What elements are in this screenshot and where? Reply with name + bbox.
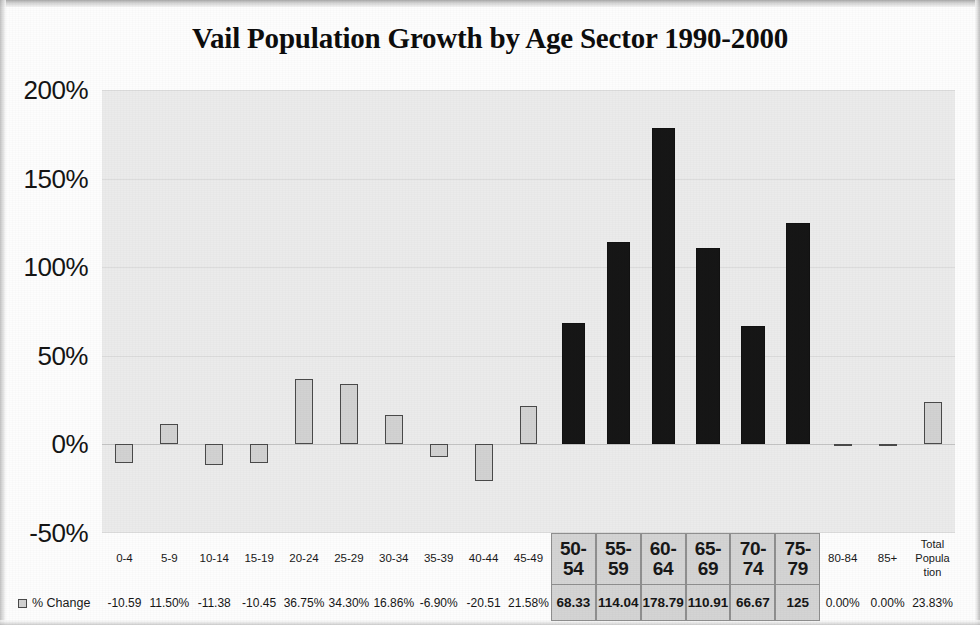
category-label: 5-9 <box>147 533 192 585</box>
category-label: 40-44 <box>461 533 506 585</box>
gridline <box>102 267 955 268</box>
value-cell: -10.59 <box>102 585 147 621</box>
bar-40-44 <box>475 444 493 480</box>
legend: % Change <box>18 596 90 610</box>
category-label: 20-24 <box>282 533 327 585</box>
table-column: 0-4-10.59 <box>102 533 147 621</box>
category-label: 10-14 <box>192 533 237 585</box>
category-label: 75-79 <box>775 533 820 585</box>
y-axis-tick-label: 150% <box>24 163 89 194</box>
bar-80-84 <box>834 444 852 446</box>
bar-60-64 <box>652 128 675 445</box>
bar-20-24 <box>295 379 313 444</box>
category-label: 45-49 <box>506 533 551 585</box>
bar-85- <box>879 444 897 446</box>
category-label: 80-84 <box>820 533 865 585</box>
value-cell: -6.90% <box>416 585 461 621</box>
table-column: 5-911.50% <box>147 533 192 621</box>
value-cell: 16.86% <box>371 585 416 621</box>
table-column: 50-5468.33 <box>551 533 596 621</box>
value-cell: 0.00% <box>865 585 910 621</box>
value-cell: 36.75% <box>282 585 327 621</box>
bar-55-59 <box>607 242 630 444</box>
gridline <box>102 90 955 91</box>
category-label: 35-39 <box>416 533 461 585</box>
value-cell: 110.91 <box>686 585 731 621</box>
category-label: 55-59 <box>596 533 641 585</box>
bar-75-79 <box>786 223 809 445</box>
value-cell: 34.30% <box>326 585 371 621</box>
y-axis-tick-label: 0% <box>51 429 88 460</box>
y-axis-tick-label: 50% <box>37 340 88 371</box>
y-axis-tick-label: 100% <box>24 252 89 283</box>
square-swatch-icon <box>18 599 27 608</box>
bar-5-9 <box>160 424 178 444</box>
plot-area <box>102 90 955 533</box>
legend-label: % Change <box>32 596 90 610</box>
page-edge-top <box>0 0 980 7</box>
bar-70-74 <box>741 326 764 444</box>
scanned-chart-page: Vail Population Growth by Age Sector 199… <box>0 0 980 625</box>
bar-10-14 <box>205 444 223 464</box>
y-axis-tick-label: 200% <box>24 75 89 106</box>
gridline <box>102 356 955 357</box>
bar-50-54 <box>562 323 585 444</box>
table-column: 30-3416.86% <box>371 533 416 621</box>
bar-total-population <box>924 402 942 444</box>
table-column: 20-2436.75% <box>282 533 327 621</box>
value-cell: 114.04 <box>596 585 641 621</box>
category-label: 0-4 <box>102 533 147 585</box>
table-column: 60-64178.79 <box>641 533 686 621</box>
y-axis-tick-label: -50% <box>29 518 88 549</box>
table-column: 35-39-6.90% <box>416 533 461 621</box>
table-column: 15-19-10.45 <box>237 533 282 621</box>
table-column: 10-14-11.38 <box>192 533 237 621</box>
value-cell: 125 <box>775 585 820 621</box>
value-cell: 66.67 <box>730 585 775 621</box>
category-label: 85+ <box>865 533 910 585</box>
table-column: 75-79125 <box>775 533 820 621</box>
bar-15-19 <box>250 444 268 463</box>
table-column: 40-44-20.51 <box>461 533 506 621</box>
value-cell: 21.58% <box>506 585 551 621</box>
value-cell: 178.79 <box>641 585 686 621</box>
bar-45-49 <box>520 406 538 444</box>
value-cell: -10.45 <box>237 585 282 621</box>
gridline <box>102 179 955 180</box>
category-label: 15-19 <box>237 533 282 585</box>
zero-line <box>102 444 955 445</box>
category-value-table: 0-4-10.595-911.50%10-14-11.3815-19-10.45… <box>102 533 955 621</box>
value-cell: -11.38 <box>192 585 237 621</box>
table-column: 55-59114.04 <box>596 533 641 621</box>
table-column: 45-4921.58% <box>506 533 551 621</box>
table-column: 70-7466.67 <box>730 533 775 621</box>
table-column: 65-69110.91 <box>686 533 731 621</box>
category-label: 60-64 <box>641 533 686 585</box>
table-column: TotalPopulation23.83% <box>910 533 955 621</box>
y-axis: 200%150%100%50%0%-50% <box>0 90 96 533</box>
category-label: 50-54 <box>551 533 596 585</box>
bar-25-29 <box>340 384 358 445</box>
value-cell: 68.33 <box>551 585 596 621</box>
category-label: 30-34 <box>371 533 416 585</box>
bar-30-34 <box>385 415 403 445</box>
page-edge-right <box>975 0 980 625</box>
chart-title: Vail Population Growth by Age Sector 199… <box>0 22 980 55</box>
table-column: 85+0.00% <box>865 533 910 621</box>
value-cell: 23.83% <box>910 585 955 621</box>
category-label: 25-29 <box>326 533 371 585</box>
table-column: 25-2934.30% <box>326 533 371 621</box>
category-label: 65-69 <box>686 533 731 585</box>
bar-65-69 <box>696 248 719 445</box>
table-column: 80-840.00% <box>820 533 865 621</box>
bar-0-4 <box>115 444 133 463</box>
value-cell: 0.00% <box>820 585 865 621</box>
value-cell: -20.51 <box>461 585 506 621</box>
bar-35-39 <box>430 444 448 456</box>
value-cell: 11.50% <box>147 585 192 621</box>
category-label: 70-74 <box>730 533 775 585</box>
category-label: TotalPopulation <box>910 533 955 585</box>
